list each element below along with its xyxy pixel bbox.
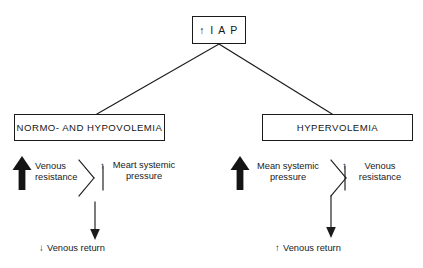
- right-outcome-label: Venous return: [283, 243, 341, 254]
- left-outcome-arrowhead: [90, 229, 100, 240]
- left-secondary-up-arrow-icon: ↑: [100, 161, 105, 171]
- right-bold-up-arrow: [231, 156, 250, 190]
- left-bold-up-arrow: [13, 156, 32, 190]
- left-outcome-label: Venous return: [47, 243, 105, 254]
- node-iap: ↑ I A P: [192, 16, 246, 44]
- right-primary-effect-label: Mean systemic pressure: [250, 161, 326, 184]
- left-primary-effect-label: Venous resistance: [35, 161, 77, 184]
- left-chevron-lower: [79, 178, 94, 196]
- right-outcome-up-arrow-icon: ↑: [275, 243, 280, 253]
- right-secondary-effect-label: Venous resistance: [352, 161, 408, 184]
- left-chevron-upper: [79, 160, 94, 178]
- left-outcome-down-arrow-icon: ↓: [39, 243, 44, 253]
- right-chevron-lower: [331, 178, 346, 196]
- right-secondary-up-arrow-icon: ↑: [342, 161, 347, 171]
- edge-root-to-left: [97, 44, 219, 114]
- left-secondary-effect-label: Meart systemic pressure: [108, 160, 180, 183]
- node-hypervolemia: HYPERVOLEMIA: [262, 114, 413, 141]
- iap-hemodynamics-diagram: ↑ I A P NORMO- AND HYPOVOLEMIA HYPERVOLE…: [0, 0, 423, 268]
- node-normo-hypovolemia: NORMO- AND HYPOVOLEMIA: [14, 114, 165, 141]
- edge-root-to-right: [219, 44, 332, 114]
- right-outcome-arrowhead: [326, 227, 336, 238]
